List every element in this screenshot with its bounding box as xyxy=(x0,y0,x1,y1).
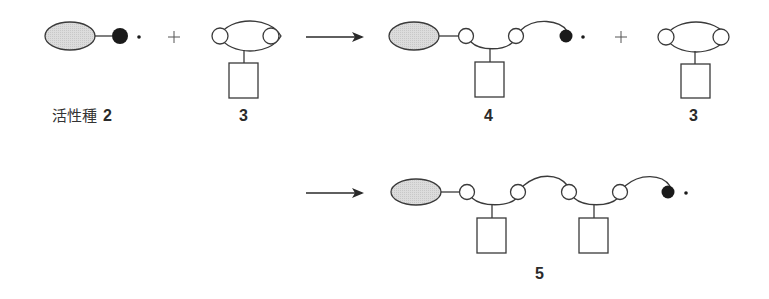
plus-sign-2 xyxy=(615,31,627,43)
active-species-text: 活性種 xyxy=(52,107,97,125)
pendant-group-box xyxy=(681,64,710,98)
radical-site-icon xyxy=(662,186,675,199)
open-circle-icon xyxy=(562,185,577,200)
open-circle-icon xyxy=(713,29,729,45)
open-circle-icon xyxy=(459,29,474,44)
pendant-group-box xyxy=(579,218,608,253)
initiator-ellipse xyxy=(45,22,95,50)
radical-dot-icon xyxy=(684,191,688,195)
label-active-species-2: 活性種2 xyxy=(52,108,112,124)
label-intermediate-4: 4 xyxy=(484,108,493,124)
monomer-3-left xyxy=(212,21,281,98)
compound-number: 4 xyxy=(484,107,493,124)
label-polymer-5: 5 xyxy=(535,266,544,282)
open-circle-icon xyxy=(460,185,475,200)
label-monomer-3-right: 3 xyxy=(689,108,698,124)
compound-number: 3 xyxy=(239,107,248,124)
pendant-group-box xyxy=(477,218,506,253)
open-circle-icon xyxy=(613,185,628,200)
radical-site-icon xyxy=(112,28,128,44)
open-circle-icon xyxy=(511,185,526,200)
label-monomer-3-left: 3 xyxy=(239,108,248,124)
open-circle-icon xyxy=(509,29,524,44)
polymer-5 xyxy=(391,176,688,253)
open-circle-icon xyxy=(263,28,279,44)
initiator-ellipse xyxy=(389,22,439,50)
monomer-3-right xyxy=(658,22,729,98)
radical-dot-icon xyxy=(137,35,141,39)
radical-dot-icon xyxy=(581,35,585,39)
compound-number: 3 xyxy=(689,107,698,124)
plus-sign-1 xyxy=(168,31,180,43)
reaction-scheme xyxy=(0,0,769,299)
compound-number: 5 xyxy=(535,265,544,282)
initiator-ellipse xyxy=(391,179,441,205)
intermediate-4 xyxy=(389,21,585,97)
open-circle-icon xyxy=(658,29,674,45)
open-circle-icon xyxy=(212,28,228,44)
active-species-2 xyxy=(45,22,141,50)
pendant-group-box xyxy=(229,63,258,98)
pendant-group-box xyxy=(475,62,504,97)
radical-site-icon xyxy=(560,30,573,43)
compound-number: 2 xyxy=(103,107,112,124)
